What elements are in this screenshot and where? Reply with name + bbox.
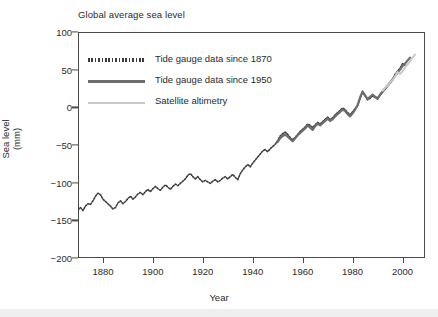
x-tick-mark [103, 258, 104, 263]
x-axis-title: Year [0, 292, 438, 303]
x-tick-label: 1960 [292, 266, 313, 277]
legend-item-tide-1870: Tide gauge data since 1870 [88, 50, 338, 71]
x-tick-label: 1900 [142, 266, 163, 277]
x-tick-label: 1980 [342, 266, 363, 277]
legend-item-satellite: Satellite altimetry [88, 92, 338, 113]
y-axis-tick-labels: 100500−50−100−150−200 [26, 0, 72, 317]
y-tick-label: −100 [51, 177, 72, 188]
y-axis-title-line1: Sea level [0, 104, 11, 174]
x-tick-mark [153, 258, 154, 263]
x-tick-label: 1940 [242, 266, 263, 277]
legend-swatch-dotted-icon [88, 58, 145, 62]
x-tick-mark [403, 258, 404, 263]
legend-label-satellite: Satellite altimetry [155, 95, 227, 106]
y-tick-label: −150 [51, 215, 72, 226]
x-tick-label: 2000 [392, 266, 413, 277]
y-tick-mark [72, 69, 78, 70]
x-tick-label: 1880 [92, 266, 113, 277]
legend-swatch-solid-dark-icon [88, 80, 145, 83]
chart-title: Global average sea level [78, 9, 185, 20]
x-tick-label: 1920 [192, 266, 213, 277]
y-axis-title: Sea level (mm) [0, 104, 22, 174]
legend-item-tide-1950: Tide gauge data since 1950 [88, 71, 338, 92]
x-tick-mark [303, 258, 304, 263]
chart-legend: Tide gauge data since 1870 Tide gauge da… [88, 50, 338, 113]
y-tick-mark [72, 31, 78, 32]
y-tick-mark [72, 220, 78, 221]
y-tick-mark [72, 257, 78, 258]
y-tick-label: 50 [61, 64, 72, 75]
x-tick-mark [353, 258, 354, 263]
bottom-band [0, 309, 438, 317]
y-tick-label: 100 [56, 27, 72, 38]
y-tick-label: −200 [51, 253, 72, 264]
series-line [383, 55, 415, 91]
y-axis-title-line2: (mm) [11, 104, 22, 174]
legend-swatch-solid-light-icon [88, 102, 145, 104]
y-tick-label: −50 [56, 140, 72, 151]
legend-label-tide-1950: Tide gauge data since 1950 [155, 74, 272, 85]
chart-container: Global average sea level 100500−50−100−1… [0, 0, 438, 317]
y-tick-mark [72, 107, 78, 108]
legend-label-tide-1870: Tide gauge data since 1870 [155, 53, 272, 64]
y-tick-mark [72, 182, 78, 183]
x-tick-mark [253, 258, 254, 263]
x-tick-mark [203, 258, 204, 263]
y-tick-mark [72, 144, 78, 145]
